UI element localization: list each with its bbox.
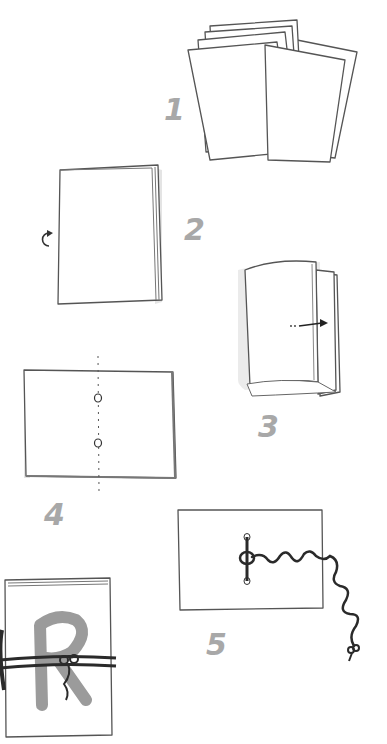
diagram-canvas — [0, 0, 387, 744]
step3-folded-stack — [238, 261, 340, 396]
step2-paper-block — [58, 165, 162, 304]
step-number-4: 4 — [44, 500, 65, 530]
step-number-5: 5 — [206, 630, 227, 660]
rotate-arrow-icon — [43, 230, 54, 246]
step-number-1: 1 — [164, 95, 185, 125]
punch-hole-top — [95, 394, 102, 402]
step1-paper-stack — [188, 20, 357, 162]
step-number-3: 3 — [258, 412, 279, 442]
step-number-2: 2 — [184, 215, 205, 245]
thread-knot-icon — [348, 645, 359, 661]
finished-booklet — [0, 578, 116, 737]
punch-hole-bottom — [95, 439, 102, 447]
step4-open-sheet — [24, 356, 176, 492]
